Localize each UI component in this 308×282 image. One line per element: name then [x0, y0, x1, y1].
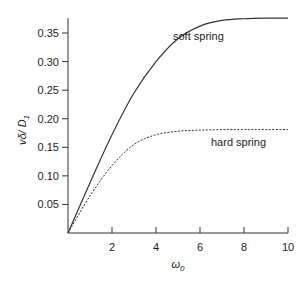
- annotation-soft-spring: soft spring: [173, 30, 224, 42]
- annotation-hard-spring: hard spring: [211, 136, 266, 148]
- y-tick-label: 0.10: [38, 170, 59, 182]
- x-tick-label: 6: [197, 241, 203, 253]
- x-tick-label: 4: [153, 241, 159, 253]
- line-chart: 0.050.100.150.200.250.300.35 246810 soft…: [0, 0, 308, 282]
- y-tick-label: 0.15: [38, 141, 59, 153]
- x-axis-label: ω0: [171, 258, 185, 273]
- y-axis-label: vδ/ D1: [16, 115, 31, 145]
- x-axis: 246810: [68, 227, 294, 253]
- x-tick-label: 2: [109, 241, 115, 253]
- y-tick-label: 0.20: [38, 113, 59, 125]
- y-tick-label: 0.05: [38, 198, 59, 210]
- y-tick-label: 0.25: [38, 84, 59, 96]
- y-axis: 0.050.100.150.200.250.300.35: [38, 18, 68, 233]
- y-tick-label: 0.30: [38, 56, 59, 68]
- series-soft-spring: [68, 18, 288, 233]
- x-tick-label: 8: [241, 241, 247, 253]
- series-group: [68, 18, 288, 233]
- y-tick-label: 0.35: [38, 27, 59, 39]
- x-tick-label: 10: [282, 241, 294, 253]
